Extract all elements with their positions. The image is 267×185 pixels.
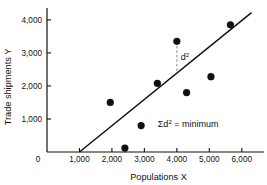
data-point: [107, 99, 114, 106]
data-point: [121, 144, 128, 151]
y-tick-label-2000: 2,000: [22, 82, 43, 91]
x-tick-label-1000: 1,000: [69, 155, 90, 164]
x-tick-label-4000: 4,000: [167, 155, 188, 164]
x-tick-label-2000: 2,000: [102, 155, 123, 164]
x-tick-label-6000: 6,000: [232, 155, 253, 164]
y-tick-label-1000: 1,000: [22, 115, 43, 124]
data-point: [173, 38, 180, 45]
x-tick-label-5000: 5,000: [199, 155, 220, 164]
x-axis-label: Populations X: [130, 172, 187, 182]
residual-label: d2: [181, 51, 190, 62]
chart-canvas: 01,0002,0003,0004,0005,0006,0001,0002,00…: [0, 0, 267, 185]
x-tick-label-3000: 3,000: [134, 155, 155, 164]
data-point: [183, 89, 190, 96]
data-point: [207, 73, 214, 80]
data-point: [227, 21, 234, 28]
y-tick-label-3000: 3,000: [22, 49, 43, 58]
sum-annotation: Σd2 = minimum: [158, 118, 219, 129]
scatter-chart-figure: 01,0002,0003,0004,0005,0006,0001,0002,00…: [0, 0, 267, 185]
x-tick-label-0: 0: [36, 155, 41, 164]
data-point: [138, 122, 145, 129]
regression-line: [79, 13, 251, 152]
y-tick-label-4000: 4,000: [22, 16, 43, 25]
data-point: [154, 80, 161, 87]
y-axis-label: Trade shipments Y: [3, 49, 13, 126]
